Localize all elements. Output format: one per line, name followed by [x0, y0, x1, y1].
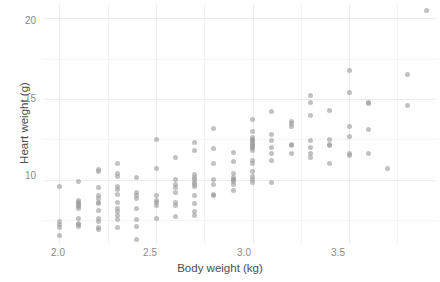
data-point — [250, 145, 255, 150]
data-point — [347, 68, 352, 73]
data-point — [347, 124, 352, 129]
x-tick-label-2-0: 2.0 — [43, 247, 73, 258]
data-point — [269, 138, 274, 143]
data-point — [211, 182, 216, 187]
data-point — [96, 216, 101, 221]
data-point — [424, 8, 429, 13]
data-point — [366, 127, 371, 132]
data-point — [269, 132, 274, 137]
scatter-plot-figure: Heart weight (g) 20 15 10 2.0 2.5 3.0 3.… — [0, 0, 440, 282]
data-point — [115, 161, 120, 166]
data-point — [327, 142, 332, 147]
data-point — [115, 184, 120, 189]
data-point — [250, 161, 255, 166]
data-point — [250, 117, 255, 122]
grid-major-x-3 — [253, 4, 254, 244]
data-point — [154, 166, 159, 171]
data-point — [250, 129, 255, 134]
data-point — [173, 177, 178, 182]
data-point — [211, 146, 216, 151]
data-point — [269, 180, 274, 185]
data-point — [96, 185, 101, 190]
data-point — [115, 171, 120, 176]
data-point — [192, 193, 197, 198]
data-point — [76, 179, 81, 184]
data-point — [308, 93, 313, 98]
grid-major-x-2 — [59, 4, 60, 244]
data-point — [289, 119, 294, 124]
data-point — [173, 214, 178, 219]
data-point — [76, 221, 81, 226]
grid-major-x-2.5 — [156, 4, 157, 244]
x-tick-label-3-0: 3.0 — [229, 247, 259, 258]
grid-minor-y-17.5 — [44, 59, 436, 60]
data-point — [134, 224, 139, 229]
grid-major-y-20 — [44, 18, 436, 19]
grid-major-y-15 — [44, 99, 436, 100]
y-tick-label-20: 20 — [10, 15, 36, 26]
data-point — [366, 151, 371, 156]
data-point — [115, 225, 120, 230]
data-point — [173, 155, 178, 160]
data-point — [405, 72, 410, 77]
data-point — [327, 137, 332, 142]
data-point — [327, 161, 332, 166]
data-point — [76, 216, 81, 221]
plot-panel — [44, 4, 436, 244]
data-point — [173, 190, 178, 195]
data-point — [250, 174, 255, 179]
data-point — [134, 206, 139, 211]
data-point — [96, 208, 101, 213]
data-point — [115, 200, 120, 205]
grid-major-y-10 — [44, 180, 436, 181]
x-axis-title: Body weight (kg) — [0, 262, 440, 274]
data-point — [57, 184, 62, 189]
data-point — [211, 177, 216, 182]
data-point — [347, 134, 352, 139]
data-point — [269, 145, 274, 150]
data-point — [405, 103, 410, 108]
data-point — [250, 169, 255, 174]
data-point — [308, 113, 313, 118]
data-point — [57, 233, 62, 238]
data-point — [231, 159, 236, 164]
data-point — [269, 151, 274, 156]
data-point — [154, 216, 159, 221]
y-tick-label-15: 15 — [10, 93, 36, 104]
data-point — [173, 185, 178, 190]
x-tick-label-3-5: 3.5 — [323, 247, 353, 258]
data-point — [231, 150, 236, 155]
grid-minor-y-7.5 — [44, 220, 436, 221]
data-point — [154, 193, 159, 198]
data-point — [289, 151, 294, 156]
data-point — [154, 198, 159, 203]
data-point — [192, 148, 197, 153]
data-point — [115, 217, 120, 222]
data-point — [347, 153, 352, 158]
data-point — [308, 145, 313, 150]
data-point — [211, 193, 216, 198]
data-point — [115, 192, 120, 197]
data-point — [154, 137, 159, 142]
data-point — [134, 217, 139, 222]
data-point — [211, 161, 216, 166]
data-point — [366, 100, 371, 105]
data-point — [192, 201, 197, 206]
data-point — [347, 90, 352, 95]
data-point — [231, 171, 236, 176]
data-point — [231, 177, 236, 182]
data-point — [289, 142, 294, 147]
grid-minor-x-2.25 — [108, 4, 109, 244]
data-point — [269, 109, 274, 114]
data-point — [192, 140, 197, 145]
data-point — [76, 206, 81, 211]
data-point — [231, 188, 236, 193]
x-tick-label-2-5: 2.5 — [135, 247, 165, 258]
data-point — [308, 100, 313, 105]
data-point — [173, 200, 178, 205]
data-point — [327, 108, 332, 113]
data-point — [269, 158, 274, 163]
data-point — [211, 126, 216, 131]
grid-minor-x-2.75 — [204, 4, 205, 244]
y-tick-label-10: 10 — [10, 170, 36, 181]
